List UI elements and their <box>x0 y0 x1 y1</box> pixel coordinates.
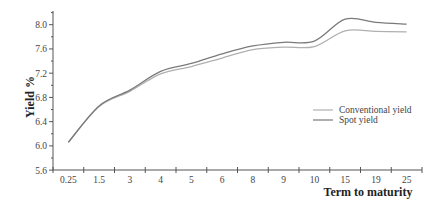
yield-curve-chart: 5.66.06.46.87.27.68.0 0.251.534568910151… <box>0 0 444 212</box>
y-axis: 5.66.06.46.87.27.68.0 <box>35 11 53 176</box>
x-tick-label: 4 <box>158 175 163 185</box>
y-ticks: 5.66.06.46.87.27.68.0 <box>35 13 53 176</box>
y-tick-label: 6.0 <box>35 141 47 151</box>
x-tick-label: 10 <box>310 175 320 185</box>
y-axis-title: Yield % <box>23 76 37 118</box>
y-tick-label: 8.0 <box>35 20 47 30</box>
x-tick-label: 5 <box>189 175 194 185</box>
x-tick-label: 19 <box>371 175 381 185</box>
y-tick-label: 7.6 <box>35 44 47 54</box>
x-tick-label: 25 <box>402 175 412 185</box>
legend: Conventional yield Spot yield <box>313 105 412 125</box>
x-tick-label: 0.25 <box>60 175 77 185</box>
x-tick-label: 3 <box>128 175 133 185</box>
x-tick-label: 9 <box>281 175 286 185</box>
x-tick-label: 6 <box>220 175 225 185</box>
conventional-yield-line <box>68 30 406 143</box>
x-axis-title: Term to maturity <box>324 185 413 199</box>
legend-label-spot: Spot yield <box>339 115 378 125</box>
x-axis: 0.251.534568910151925 <box>53 167 422 185</box>
y-tick-label: 5.6 <box>35 166 47 176</box>
x-tick-label: 15 <box>340 175 350 185</box>
x-tick-label: 1.5 <box>93 175 105 185</box>
legend-label-conventional: Conventional yield <box>339 105 412 115</box>
x-tick-label: 8 <box>251 175 256 185</box>
